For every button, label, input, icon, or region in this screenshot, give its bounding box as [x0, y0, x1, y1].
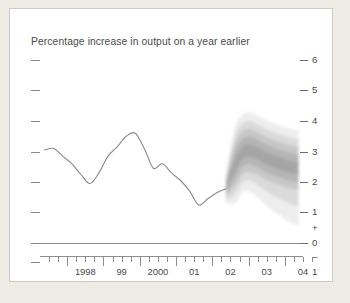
x-axis-minor-tick [267, 257, 268, 262]
x-axis-minor-tick [194, 257, 195, 262]
x-axis-major-tick [176, 257, 177, 266]
x-axis-minor-tick [167, 257, 168, 262]
fan-chart-graphic [0, 0, 350, 303]
y-axis-right-tick-4 [300, 121, 308, 122]
y-axis-label-4: 4 [312, 116, 332, 126]
y-axis-plus-sign: + [312, 223, 318, 233]
y-axis-label-3: 3 [312, 147, 332, 157]
x-axis-minor-tick [149, 257, 150, 262]
x-axis-major-tick [212, 257, 213, 266]
x-axis-minor-tick [85, 257, 86, 262]
x-axis-minor-tick [94, 257, 95, 262]
y-axis-label-2: 2 [312, 177, 332, 187]
x-axis-minor-tick [58, 257, 59, 262]
x-axis-label: 99 [116, 266, 126, 277]
x-axis-minor-tick [294, 257, 295, 262]
y-axis-label-5: 5 [312, 85, 332, 95]
y-axis-label-1: 1 [312, 207, 332, 217]
x-axis-minor-tick [113, 257, 114, 262]
x-axis-label: 01 [189, 266, 199, 277]
x-axis-minor-tick [49, 257, 50, 262]
x-axis-minor-tick [76, 257, 77, 262]
x-axis-minor-tick [240, 257, 241, 262]
fan-bands [226, 112, 299, 226]
x-axis-major-tick [285, 257, 286, 266]
chart-screenshot: Percentage increase in output on a year … [0, 0, 350, 303]
y-axis-right-tick-2 [300, 182, 308, 183]
y-axis-right-tick-5 [300, 90, 308, 91]
x-axis-minor-tick [258, 257, 259, 262]
x-axis-minor-tick [131, 257, 132, 262]
history-line [45, 132, 226, 205]
x-axis-minor-tick [158, 257, 159, 262]
y-axis-right-tick-1 [300, 212, 308, 213]
x-axis-label: 02 [225, 266, 235, 277]
x-axis-minor-tick [303, 257, 304, 262]
x-axis-line [40, 256, 303, 257]
zero-baseline [40, 243, 302, 244]
x-axis-minor-tick [203, 257, 204, 262]
y-axis-right-tick-0 [300, 243, 308, 244]
x-axis-minor-tick [221, 257, 222, 262]
x-axis-label: 04 [298, 266, 308, 277]
x-axis-major-tick [67, 257, 68, 266]
x-axis-label: 2000 [147, 266, 168, 277]
y-axis-label-6: 6 [312, 55, 332, 65]
x-axis-major-tick [103, 257, 104, 266]
y-axis-label-minus1: 1 [312, 267, 332, 277]
x-axis-minor-tick [185, 257, 186, 262]
x-axis-label: 1998 [75, 266, 96, 277]
y-axis-label-0: 0 [312, 238, 332, 248]
x-axis-label: 03 [262, 266, 272, 277]
x-axis-major-tick [140, 257, 141, 266]
x-axis-major-tick [249, 257, 250, 266]
x-axis-minor-tick [276, 257, 277, 262]
x-axis-minor-tick [312, 257, 313, 262]
x-axis-minor-tick [230, 257, 231, 262]
y-axis-right-tick-3 [300, 152, 308, 153]
y-axis-right-tick-6 [300, 60, 308, 61]
x-axis-minor-tick [122, 257, 123, 262]
